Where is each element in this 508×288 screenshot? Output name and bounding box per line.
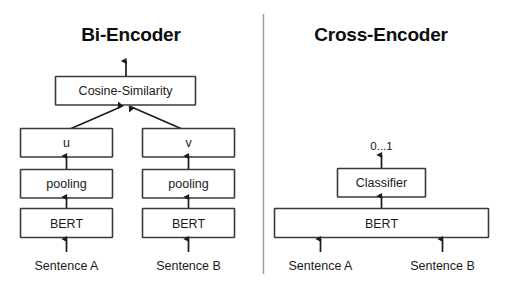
edge-u-to-similarity [70,107,121,129]
input-label-sentence-b-left: Sentence B [156,259,221,273]
diagram-canvas: Bi-Encoder Cosine-Similarity u v pooling… [0,0,508,288]
node-cosine-similarity-label: Cosine-Similarity [79,84,174,98]
node-embedding-v-label: v [185,136,192,150]
node-encoder-bert-b-label: BERT [172,217,205,231]
left-panel-title: Bi-Encoder [81,24,181,45]
node-encoder-bert-a-label: BERT [50,217,83,231]
output-score-label: 0...1 [370,140,392,152]
right-panel-title: Cross-Encoder [314,24,448,45]
node-embedding-u-label: u [63,136,70,150]
input-label-sentence-b-right: Sentence B [410,259,475,273]
input-label-sentence-a-left: Sentence A [35,259,100,273]
node-classifier-label: Classifier [356,176,407,190]
input-label-sentence-a-right: Sentence A [289,259,354,273]
edge-v-to-similarity [132,107,183,129]
node-pooling-b-label: pooling [168,177,208,191]
figure-root: Bi-Encoder Cosine-Similarity u v pooling… [0,0,508,288]
node-pooling-a-label: pooling [46,177,86,191]
node-encoder-bert-cross-label: BERT [365,217,398,231]
